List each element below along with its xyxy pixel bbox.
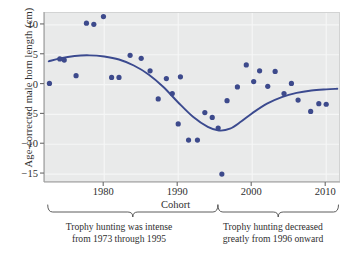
data-point xyxy=(84,21,89,26)
data-point xyxy=(139,56,144,61)
y-axis-tick-label: −15 xyxy=(14,168,38,179)
data-point xyxy=(257,68,262,73)
annotation-caption-right: Trophy hunting decreased greatly from 19… xyxy=(198,221,348,244)
data-point xyxy=(170,91,175,96)
data-point xyxy=(273,69,278,74)
x-axis-tick-label: 1980 xyxy=(93,186,114,197)
chart-figure: Age-corrected male horn length (cm) 1050… xyxy=(0,0,351,257)
data-point xyxy=(156,96,161,101)
data-point xyxy=(281,91,286,96)
brace-left xyxy=(48,205,218,217)
data-point xyxy=(101,14,106,19)
data-point xyxy=(265,84,270,89)
y-axis-tick-label: 5 xyxy=(14,48,38,59)
y-axis-tick-label: 10 xyxy=(14,18,38,29)
data-point xyxy=(295,97,300,102)
x-axis-tick-label: 2000 xyxy=(241,186,262,197)
x-axis-tick-label: 2010 xyxy=(315,186,336,197)
data-point xyxy=(91,22,96,27)
y-axis-tick-label: 0 xyxy=(14,78,38,89)
data-point xyxy=(147,68,152,73)
data-point xyxy=(235,84,240,89)
data-point xyxy=(308,109,313,114)
data-point xyxy=(316,101,321,106)
data-point xyxy=(57,56,62,61)
data-point xyxy=(109,75,114,80)
data-point xyxy=(202,110,207,115)
data-point xyxy=(186,137,191,142)
annotation-right-line2: greatly from 1996 onward xyxy=(198,233,348,245)
trend-curve xyxy=(49,55,338,130)
data-point xyxy=(164,76,169,81)
data-point xyxy=(210,115,215,120)
annotation-left-line2: from 1973 through 1995 xyxy=(38,233,200,245)
data-point xyxy=(116,75,121,80)
data-point xyxy=(128,53,133,58)
data-point xyxy=(244,62,249,67)
data-point xyxy=(324,102,329,107)
data-point xyxy=(251,79,256,84)
data-point xyxy=(289,81,294,86)
brace-right xyxy=(218,205,339,217)
y-axis-tick-label: −10 xyxy=(14,138,38,149)
data-point xyxy=(216,126,221,131)
data-point xyxy=(178,74,183,79)
data-point xyxy=(195,137,200,142)
annotation-caption-left: Trophy hunting was intense from 1973 thr… xyxy=(38,221,200,244)
data-point xyxy=(176,121,181,126)
data-point xyxy=(47,81,52,86)
data-point xyxy=(73,73,78,78)
data-point xyxy=(224,98,229,103)
x-axis-tick-label: 1990 xyxy=(167,186,188,197)
data-point xyxy=(219,171,224,176)
plot-svg xyxy=(45,13,340,182)
annotation-right-line1: Trophy hunting decreased xyxy=(198,221,348,233)
data-point xyxy=(62,58,67,63)
annotation-left-line1: Trophy hunting was intense xyxy=(38,221,200,233)
y-axis-tick-label: −5 xyxy=(14,108,38,119)
plot-area xyxy=(44,12,340,182)
